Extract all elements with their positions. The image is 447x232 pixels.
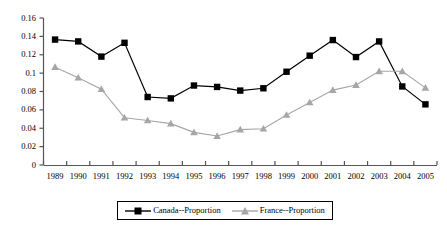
data-point-marker bbox=[144, 94, 150, 100]
data-point-marker bbox=[376, 38, 382, 44]
y-axis-tick-label: 0.16 bbox=[2, 14, 36, 23]
series-line bbox=[55, 67, 425, 136]
data-point-marker bbox=[214, 84, 220, 90]
x-axis-tick-label: 1995 bbox=[181, 172, 207, 181]
x-axis-tick-label: 1989 bbox=[42, 172, 68, 181]
data-point-marker bbox=[237, 87, 243, 93]
data-point-marker bbox=[191, 82, 197, 88]
data-point-marker bbox=[399, 83, 405, 89]
data-point-marker bbox=[121, 40, 127, 46]
legend-label-france: France--Proportion bbox=[260, 206, 325, 215]
data-point-marker bbox=[353, 54, 359, 60]
legend-item-canada[interactable]: Canada--Proportion bbox=[125, 205, 221, 217]
chart-legend: Canada--Proportion France--Proportion bbox=[117, 201, 333, 220]
y-axis-tick-label: 0.06 bbox=[2, 105, 36, 114]
x-axis-tick-label: 1990 bbox=[65, 172, 91, 181]
y-axis-tick-label: 0 bbox=[2, 161, 36, 170]
x-axis-tick-label: 2000 bbox=[297, 172, 323, 181]
data-point-marker bbox=[422, 84, 430, 91]
x-axis-tick-label: 1996 bbox=[204, 172, 230, 181]
x-axis-tick-label: 1997 bbox=[227, 172, 253, 181]
legend-item-france[interactable]: France--Proportion bbox=[232, 205, 325, 217]
y-axis-tick-label: 0.1 bbox=[2, 69, 36, 78]
data-point-marker bbox=[330, 37, 336, 43]
data-point-marker bbox=[98, 53, 104, 59]
line-chart: 0.160.140.120.10.080.060.040.020 1989199… bbox=[0, 0, 447, 232]
legend-swatch-canada-icon bbox=[125, 205, 151, 217]
y-axis-tick-label: 0.14 bbox=[2, 32, 36, 41]
data-point-marker bbox=[422, 101, 428, 107]
legend-swatch-france-icon bbox=[232, 205, 258, 217]
data-point-marker bbox=[352, 81, 360, 88]
x-axis-tick-label: 2002 bbox=[343, 172, 369, 181]
data-point-marker bbox=[306, 99, 314, 106]
data-point-marker bbox=[306, 52, 312, 58]
x-axis-tick-label: 1993 bbox=[135, 172, 161, 181]
series-line bbox=[55, 40, 425, 105]
data-series-group bbox=[51, 36, 429, 139]
data-point-marker bbox=[98, 85, 106, 92]
x-axis-ticks bbox=[44, 161, 438, 165]
y-axis-tick-label: 0.02 bbox=[2, 142, 36, 151]
x-axis-tick-label: 2001 bbox=[320, 172, 346, 181]
data-series bbox=[51, 63, 429, 139]
plot-area bbox=[0, 0, 447, 232]
data-point-marker bbox=[51, 63, 59, 70]
x-axis-tick-label: 2005 bbox=[412, 172, 438, 181]
data-point-marker bbox=[283, 69, 289, 75]
y-axis-tick-label: 0.04 bbox=[2, 124, 36, 133]
data-point-marker bbox=[283, 111, 291, 118]
x-axis-tick-label: 2004 bbox=[389, 172, 415, 181]
legend-label-canada: Canada--Proportion bbox=[153, 206, 221, 215]
data-point-marker bbox=[75, 38, 81, 44]
x-axis-tick-label: 1999 bbox=[274, 172, 300, 181]
x-axis-tick-label: 1992 bbox=[112, 172, 138, 181]
data-point-marker bbox=[52, 36, 58, 42]
y-axis-tick-label: 0.12 bbox=[2, 50, 36, 59]
data-point-marker bbox=[168, 95, 174, 101]
x-axis-tick-label: 2003 bbox=[366, 172, 392, 181]
x-axis-tick-label: 1994 bbox=[158, 172, 184, 181]
y-axis-tick-label: 0.08 bbox=[2, 87, 36, 96]
data-point-marker bbox=[260, 125, 268, 132]
data-series bbox=[52, 36, 429, 107]
x-axis-tick-label: 1998 bbox=[250, 172, 276, 181]
data-point-marker bbox=[260, 85, 266, 91]
data-point-marker bbox=[74, 74, 82, 81]
x-axis-tick-label: 1991 bbox=[88, 172, 114, 181]
